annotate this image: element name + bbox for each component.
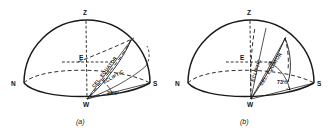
panel-a: Z N S E W CEL. EQUATOR ECLIPTIC 24½° (a) (11, 9, 158, 126)
panel-b: Z N S E W ECLIPTIC CEL. EQUATOR 73½° (b) (175, 9, 322, 126)
figure-container: Z N S E W CEL. EQUATOR ECLIPTIC 24½° (a) (0, 0, 328, 132)
panel-a-meridian-vertical (86, 21, 87, 99)
panel-a-label-west: W (83, 101, 90, 108)
panel-b-label-west: W (247, 101, 254, 108)
panel-b-dome-outline (188, 20, 314, 83)
panel-b-label-north: N (175, 80, 180, 87)
panel-a-label-east: E (79, 54, 84, 61)
panel-b-equator-right-limb (285, 38, 290, 82)
panel-a-label-zenith: Z (83, 9, 87, 16)
panel-b-label-angle: 73½° (277, 79, 289, 85)
panel-b-meridian-vertical (250, 21, 251, 99)
panel-a-label-angle: 24½° (107, 90, 119, 96)
panel-a-caption: (a) (76, 118, 85, 126)
panel-b-label-east: E (240, 54, 245, 61)
panel-a-label-north: N (11, 80, 16, 87)
panel-a-label-south: S (153, 80, 158, 87)
panel-b-label-south: S (317, 80, 322, 87)
panel-a-dome-outline (24, 20, 150, 83)
panel-b-label-zenith: Z (247, 9, 251, 16)
panel-b-caption: (b) (240, 118, 249, 126)
celestial-sphere-figure: Z N S E W CEL. EQUATOR ECLIPTIC 24½° (a) (0, 0, 328, 132)
